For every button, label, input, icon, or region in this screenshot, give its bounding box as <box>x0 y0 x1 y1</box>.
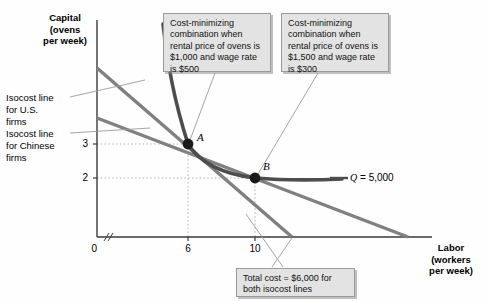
isoquant-label: Q = 5,000 <box>350 172 394 183</box>
leader-callout-b <box>258 73 318 174</box>
y-tick-label-3: 3 <box>72 138 88 149</box>
x-axis-title-line2: (workers <box>418 254 484 266</box>
isoquant-isocost-figure: Capital (ovens per week) Labor (workers … <box>0 0 486 301</box>
callout-leader-lines <box>190 73 318 267</box>
isoquant-value: = 5,000 <box>357 172 393 183</box>
callout-total-cost: Total cost = $6,000 for both isocost lin… <box>236 268 355 297</box>
leader-callout-a <box>190 73 215 140</box>
leader-cost-us <box>272 238 292 267</box>
y-axis-title-line1: Capital <box>36 12 94 24</box>
data-point-a <box>183 139 194 150</box>
callout-point-a: Cost-minimizing combination when rental … <box>163 13 271 72</box>
gridlines <box>97 144 255 237</box>
x-axis-title-line3: per week) <box>418 265 484 277</box>
leader-cost-chinese <box>246 214 283 267</box>
origin-label: 0 <box>83 243 97 254</box>
label-leader-lines <box>70 80 150 133</box>
x-tick-label-6: 6 <box>180 243 196 254</box>
isocost-us-label-line2: for U.S. <box>6 104 54 116</box>
isocost-chinese-label-line3: firms <box>6 152 55 164</box>
y-axis-title-line3: per week) <box>36 35 94 47</box>
callout-point-b: Cost-minimizing combination when rental … <box>281 13 389 72</box>
point-a-label: A <box>197 131 204 143</box>
isocost-chinese-label: Isocost line for Chinese firms <box>6 128 55 164</box>
x-axis-title: Labor (workers per week) <box>418 242 484 277</box>
isocost-us-label-line3: firms <box>6 116 54 128</box>
data-point-b <box>250 173 261 184</box>
isocost-chinese-label-line2: for Chinese <box>6 140 55 152</box>
isocost-chinese-label-line1: Isocost line <box>6 128 55 140</box>
y-tick-label-2: 2 <box>72 172 88 183</box>
y-axis-title-line2: (ovens <box>36 24 94 36</box>
x-axis-title-line1: Labor <box>418 242 484 254</box>
leader-us-label <box>70 80 145 97</box>
x-tick-label-10: 10 <box>246 243 264 254</box>
isocost-us-label: Isocost line for U.S. firms <box>6 92 54 128</box>
point-b-label: B <box>263 160 270 172</box>
y-axis-title: Capital (ovens per week) <box>36 12 94 47</box>
isocost-us-label-line1: Isocost line <box>6 92 54 104</box>
